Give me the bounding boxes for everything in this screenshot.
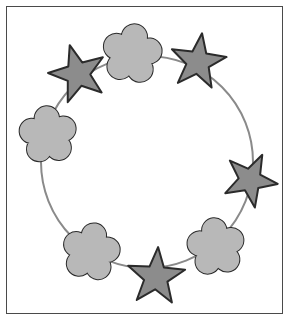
flower-bottom-left [59,219,124,282]
star-icon [42,37,112,105]
star-icon [216,143,286,212]
star-right [216,143,286,212]
flower-fill [59,219,124,282]
shapes-group [18,20,286,303]
star-icon [126,245,187,303]
flower-bottom-right [185,215,246,275]
figure-root [0,0,291,322]
pattern-canvas [0,0,291,322]
star-bottom [126,245,187,303]
star-top-left [42,37,112,105]
flower-top [100,20,165,84]
flower-left [18,104,78,162]
